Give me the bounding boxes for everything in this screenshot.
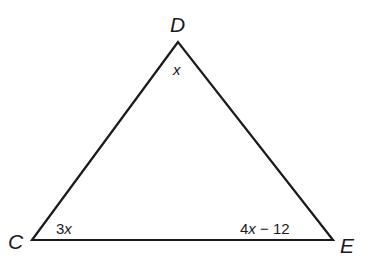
angle-label-d: x xyxy=(172,61,181,78)
vertex-label-e: E xyxy=(340,234,355,257)
angle-label-c: 3x xyxy=(56,220,72,237)
triangle-diagram: D C E x 3x 4x − 12 xyxy=(0,0,368,260)
vertex-label-d: D xyxy=(170,13,185,36)
angle-label-e: 4x − 12 xyxy=(240,220,290,237)
triangle-cde xyxy=(32,42,333,240)
vertex-label-c: C xyxy=(8,230,24,253)
